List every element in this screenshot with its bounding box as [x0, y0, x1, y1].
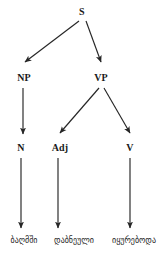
edge-vp-to-adj	[60, 88, 99, 133]
tree-edges-svg	[0, 0, 165, 257]
node-label-v: V	[126, 142, 133, 153]
node-label-adj: Adj	[52, 142, 69, 153]
node-label-vp: VP	[94, 72, 108, 83]
edge-vp-to-v	[104, 88, 130, 133]
terminal-word-noun: ბაღმში	[11, 236, 38, 245]
node-label-s: S	[79, 6, 85, 17]
terminal-word-verb: იყურებოდა	[112, 236, 156, 245]
edge-s-to-np	[25, 21, 79, 62]
node-label-n: N	[17, 142, 24, 153]
edge-s-to-vp	[86, 21, 101, 62]
node-label-np: NP	[17, 72, 31, 83]
syntax-tree-figure: S NP VP N Adj V ბაღმში დაბნეული იყურებოდ…	[0, 0, 165, 257]
terminal-word-adjective: დაბნეული	[54, 236, 94, 245]
